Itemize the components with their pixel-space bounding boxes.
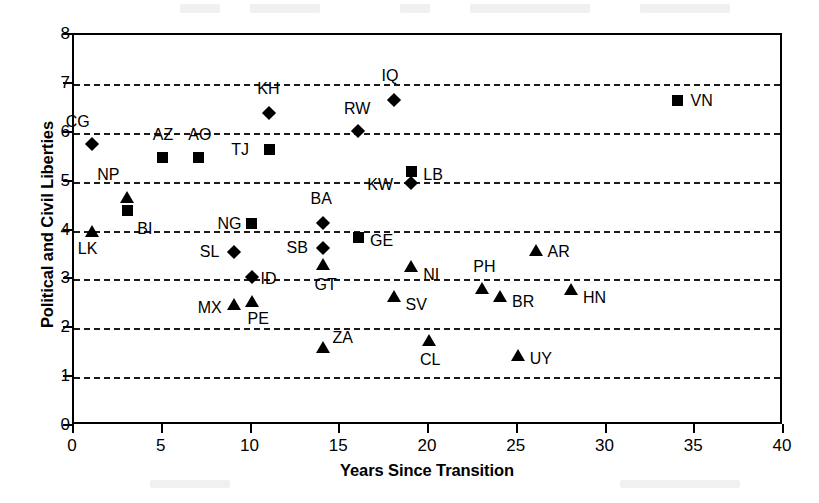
gridline-y-2 bbox=[74, 328, 780, 330]
data-point-label-ng: NG bbox=[218, 216, 242, 232]
x-tick-mark-30 bbox=[605, 424, 607, 433]
x-tick-label-40: 40 bbox=[762, 437, 802, 454]
data-point-label-lb: LB bbox=[423, 167, 443, 183]
x-axis-title: Years Since Transition bbox=[72, 461, 782, 480]
data-point-label-vn: VN bbox=[691, 93, 713, 109]
marker-square-icon bbox=[406, 166, 417, 177]
data-point-label-gt: GT bbox=[315, 277, 337, 293]
data-point-label-mx: MX bbox=[198, 300, 222, 316]
data-point-label-ar: AR bbox=[548, 244, 570, 260]
data-point-label-kh: KH bbox=[257, 81, 279, 97]
x-tick-label-10: 10 bbox=[230, 437, 270, 454]
marker-square-icon bbox=[264, 144, 275, 155]
marker-diamond-icon bbox=[315, 216, 329, 230]
y-tick-label-3: 3 bbox=[30, 269, 70, 286]
plot-area: CGLKNPBIAZAOSLMXNGIDPEKHTJBASBGTZARWGEIQ… bbox=[72, 33, 782, 424]
data-point-label-lk: LK bbox=[78, 241, 98, 257]
marker-diamond-icon bbox=[85, 137, 99, 151]
x-tick-label-5: 5 bbox=[141, 437, 181, 454]
x-tick-label-0: 0 bbox=[52, 437, 92, 454]
marker-triangle-icon bbox=[422, 334, 436, 346]
data-point-label-ao: AO bbox=[188, 127, 211, 143]
x-tick-mark-5 bbox=[161, 424, 163, 433]
scan-artifact bbox=[640, 4, 730, 13]
y-tick-label-7: 7 bbox=[30, 74, 70, 91]
marker-triangle-icon bbox=[85, 225, 99, 237]
y-tick-label-5: 5 bbox=[30, 172, 70, 189]
marker-triangle-icon bbox=[564, 283, 578, 295]
x-tick-label-15: 15 bbox=[318, 437, 358, 454]
marker-diamond-icon bbox=[351, 124, 365, 138]
scan-artifact bbox=[180, 4, 220, 13]
marker-triangle-icon bbox=[493, 290, 507, 302]
marker-diamond-icon bbox=[244, 270, 258, 284]
marker-triangle-icon bbox=[529, 244, 543, 256]
scan-artifact bbox=[620, 480, 740, 488]
marker-square-icon bbox=[246, 218, 257, 229]
scatter-plot-figure: Political and Civil Liberties Years Sinc… bbox=[0, 0, 819, 503]
marker-triangle-icon bbox=[245, 295, 259, 307]
data-point-label-sl: SL bbox=[200, 244, 220, 260]
marker-diamond-icon bbox=[262, 106, 276, 120]
x-tick-label-20: 20 bbox=[407, 437, 447, 454]
data-point-label-np: NP bbox=[97, 167, 119, 183]
marker-triangle-icon bbox=[387, 290, 401, 302]
marker-triangle-icon bbox=[511, 349, 525, 361]
x-tick-label-25: 25 bbox=[496, 437, 536, 454]
y-tick-label-1: 1 bbox=[30, 367, 70, 384]
data-point-label-br: BR bbox=[512, 294, 534, 310]
y-tick-label-8: 8 bbox=[30, 25, 70, 42]
gridline-y-4 bbox=[74, 231, 780, 233]
y-tick-label-4: 4 bbox=[30, 221, 70, 238]
marker-square-icon bbox=[353, 232, 364, 243]
marker-diamond-icon bbox=[315, 241, 329, 255]
marker-diamond-icon bbox=[386, 93, 400, 107]
scan-artifact bbox=[400, 4, 430, 13]
data-point-label-kw: KW bbox=[367, 177, 393, 193]
data-point-label-cg: CG bbox=[66, 114, 90, 130]
x-tick-mark-10 bbox=[250, 424, 252, 433]
x-tick-mark-15 bbox=[338, 424, 340, 433]
data-point-label-bi: BI bbox=[137, 221, 152, 237]
y-tick-label-0: 0 bbox=[30, 416, 70, 433]
marker-triangle-icon bbox=[227, 298, 241, 310]
marker-triangle-icon bbox=[316, 258, 330, 270]
data-point-label-id: ID bbox=[261, 271, 277, 287]
y-tick-label-6: 6 bbox=[30, 123, 70, 140]
scan-artifact bbox=[470, 4, 590, 13]
y-tick-label-2: 2 bbox=[30, 318, 70, 335]
marker-diamond-icon bbox=[404, 176, 418, 190]
data-point-label-za: ZA bbox=[333, 330, 353, 346]
data-point-label-sb: SB bbox=[287, 240, 308, 256]
marker-triangle-icon bbox=[475, 282, 489, 294]
data-point-label-ge: GE bbox=[370, 233, 393, 249]
marker-triangle-icon bbox=[316, 341, 330, 353]
data-point-label-az: AZ bbox=[153, 127, 173, 143]
x-tick-label-35: 35 bbox=[673, 437, 713, 454]
gridline-y-6 bbox=[74, 133, 780, 135]
x-tick-mark-35 bbox=[693, 424, 695, 433]
marker-square-icon bbox=[672, 95, 683, 106]
gridline-y-7 bbox=[74, 84, 780, 86]
data-point-label-ni: NI bbox=[423, 267, 439, 283]
scan-artifact bbox=[150, 480, 230, 488]
data-point-label-ph: PH bbox=[473, 259, 495, 275]
x-tick-label-30: 30 bbox=[585, 437, 625, 454]
x-tick-mark-20 bbox=[427, 424, 429, 433]
data-point-label-pe: PE bbox=[248, 311, 269, 327]
marker-triangle-icon bbox=[120, 191, 134, 203]
data-point-label-hn: HN bbox=[583, 290, 606, 306]
data-point-label-uy: UY bbox=[530, 351, 552, 367]
data-point-label-iq: IQ bbox=[382, 68, 399, 84]
data-point-label-rw: RW bbox=[344, 101, 370, 117]
data-point-label-ba: BA bbox=[311, 191, 332, 207]
data-point-label-sv: SV bbox=[406, 297, 427, 313]
data-point-label-cl: CL bbox=[420, 352, 440, 368]
x-tick-mark-40 bbox=[782, 424, 784, 433]
marker-triangle-icon bbox=[404, 260, 418, 272]
x-tick-mark-0 bbox=[72, 424, 74, 433]
gridline-y-1 bbox=[74, 377, 780, 379]
marker-square-icon bbox=[122, 205, 133, 216]
scan-artifact bbox=[250, 4, 320, 13]
x-tick-mark-25 bbox=[516, 424, 518, 433]
